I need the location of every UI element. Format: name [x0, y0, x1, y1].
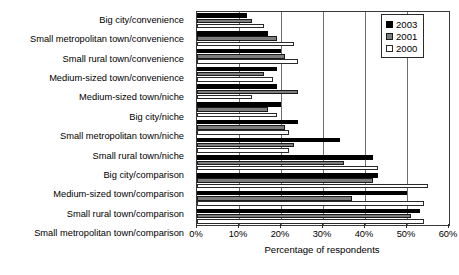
bar-2003: [197, 138, 340, 142]
bar-2000: [197, 113, 277, 117]
bar-2000: [197, 219, 424, 223]
bar-2003: [197, 102, 281, 106]
bar-2001: [197, 161, 344, 165]
bar-2003: [197, 191, 407, 195]
x-tick-label: 0%: [189, 229, 202, 239]
bar-2001: [197, 72, 264, 76]
category-label: Big city/comparison: [0, 166, 190, 185]
x-tick-mark: [196, 224, 197, 228]
x-axis-tick-labels: 0%10%20%30%40%50%60%: [196, 229, 448, 243]
legend-item: 2000: [386, 42, 417, 54]
bar-2003: [197, 67, 277, 71]
bar-2000: [197, 24, 264, 28]
x-tick-label: 20%: [271, 229, 290, 239]
x-tick-mark: [406, 224, 407, 228]
category-label: Small rural town/comparison: [0, 205, 190, 224]
bar-group: [197, 65, 449, 83]
bar-2003: [197, 155, 373, 159]
bar-group: [197, 154, 449, 172]
category-label: Small rural town/convenience: [0, 50, 190, 69]
category-label: Small metropolitan town/convenience: [0, 30, 190, 49]
bar-2000: [197, 77, 273, 81]
bar-2001: [197, 196, 352, 200]
x-tick-mark: [448, 224, 449, 228]
bar-2000: [197, 95, 252, 99]
category-label: Big city/convenience: [0, 11, 190, 30]
swatch-white-icon: [386, 45, 393, 52]
category-label: Medium-sized town/convenience: [0, 69, 190, 88]
bar-group: [197, 190, 449, 208]
bar-2001: [197, 19, 252, 23]
x-tick-mark: [280, 224, 281, 228]
category-label: Small rural town/niche: [0, 147, 190, 166]
bar-2001: [197, 36, 277, 40]
bar-2001: [197, 214, 411, 218]
bar-group: [197, 83, 449, 101]
bar-2000: [197, 42, 294, 46]
bar-2001: [197, 107, 268, 111]
category-label: Small metropolitan town/comparison: [0, 224, 190, 243]
swatch-black-icon: [386, 21, 393, 28]
x-tick-mark: [322, 224, 323, 228]
bar-2003: [197, 84, 277, 88]
bar-group: [197, 136, 449, 154]
bar-group: [197, 101, 449, 119]
bar-2003: [197, 31, 268, 35]
bar-2001: [197, 178, 373, 182]
category-label: Big city/niche: [0, 108, 190, 127]
x-tick-label: 30%: [313, 229, 332, 239]
bar-2003: [197, 173, 378, 177]
x-tick-label: 50%: [397, 229, 416, 239]
legend-item: 2001: [386, 30, 417, 42]
bar-group: [197, 119, 449, 137]
bar-2001: [197, 90, 298, 94]
category-label: Small metropolitan town/niche: [0, 127, 190, 146]
legend-item: 2003: [386, 18, 417, 30]
bar-2003: [197, 49, 281, 53]
bar-2000: [197, 148, 289, 152]
legend: 200320012000: [381, 14, 424, 58]
bar-chart: Big city/convenienceSmall metropolitan t…: [0, 0, 459, 275]
category-label: Medium-sized town/niche: [0, 88, 190, 107]
category-axis: Big city/convenienceSmall metropolitan t…: [0, 11, 190, 224]
x-tick-mark: [364, 224, 365, 228]
bar-group: [197, 207, 449, 225]
x-tick-label: 40%: [355, 229, 374, 239]
legend-label: 2000: [396, 43, 417, 54]
bar-2003: [197, 13, 247, 17]
x-tick-label: 60%: [439, 229, 458, 239]
bar-2000: [197, 166, 378, 170]
category-label: Medium-sized town/comparison: [0, 185, 190, 204]
legend-label: 2003: [396, 19, 417, 30]
swatch-gray-icon: [386, 33, 393, 40]
legend-label: 2001: [396, 31, 417, 42]
bar-2000: [197, 201, 424, 205]
bar-2000: [197, 59, 298, 63]
bar-2003: [197, 209, 420, 213]
bar-group: [197, 172, 449, 190]
x-tick-label: 10%: [229, 229, 248, 239]
bar-2001: [197, 125, 285, 129]
bar-2003: [197, 120, 298, 124]
x-tick-mark: [238, 224, 239, 228]
bar-2001: [197, 54, 285, 58]
bar-2001: [197, 143, 294, 147]
x-axis-title: Percentage of respondents: [196, 244, 448, 255]
bar-2000: [197, 130, 289, 134]
bar-2000: [197, 184, 428, 188]
